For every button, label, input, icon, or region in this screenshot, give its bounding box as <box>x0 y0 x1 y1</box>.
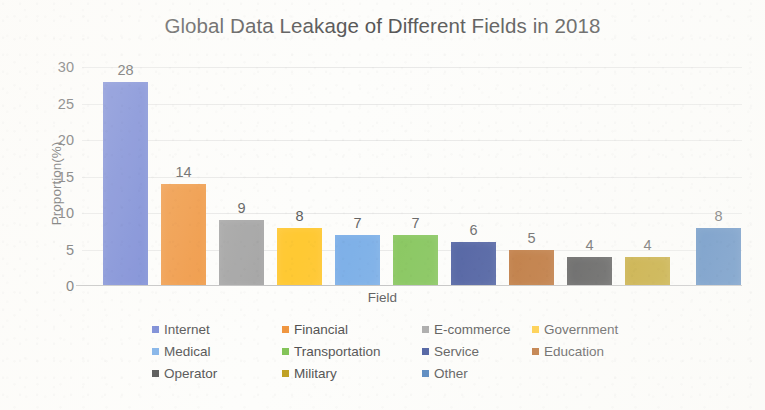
bar[interactable] <box>451 242 496 286</box>
legend-item-education[interactable]: Education <box>532 344 672 359</box>
legend-swatch-icon <box>422 348 429 355</box>
bar[interactable] <box>103 82 148 286</box>
legend-item-financial[interactable]: Financial <box>282 322 422 337</box>
bar-value-label: 7 <box>393 215 438 231</box>
legend-item-medical[interactable]: Medical <box>152 344 282 359</box>
bar-value-label: 5 <box>509 230 554 246</box>
y-axis-tick-labels: 302520151050 <box>36 67 74 286</box>
bar[interactable] <box>393 235 438 286</box>
bar-value-label: 9 <box>219 200 264 216</box>
bar-value-label: 14 <box>161 164 206 180</box>
bar-group[interactable]: 5 <box>509 67 554 286</box>
legend-item-military[interactable]: Military <box>282 366 422 381</box>
legend-label: Internet <box>164 322 210 337</box>
bar-value-label: 7 <box>335 215 380 231</box>
chart-legend: InternetFinancialE-commerceGovernmentMed… <box>152 318 672 384</box>
chart-title: Global Data Leakage of Different Fields … <box>0 14 765 38</box>
legend-label: Government <box>544 322 618 337</box>
bar-group[interactable]: 14 <box>161 67 206 286</box>
y-axis-tick-label: 30 <box>40 59 74 75</box>
bar[interactable] <box>161 184 206 286</box>
legend-swatch-icon <box>532 348 539 355</box>
y-axis-tick-label: 5 <box>40 242 74 258</box>
bar-value-label: 8 <box>696 208 741 224</box>
legend-swatch-icon <box>282 326 289 333</box>
bar-group[interactable]: 7 <box>335 67 380 286</box>
legend-label: Medical <box>164 344 211 359</box>
bar-group[interactable]: 7 <box>393 67 438 286</box>
legend-swatch-icon <box>422 370 429 377</box>
legend-swatch-icon <box>152 370 159 377</box>
legend-item-other[interactable]: Other <box>422 366 532 381</box>
bar[interactable] <box>335 235 380 286</box>
y-axis-tick-label: 20 <box>40 132 74 148</box>
legend-item-internet[interactable]: Internet <box>152 322 282 337</box>
legend-swatch-icon <box>152 348 159 355</box>
legend-swatch-icon <box>532 326 539 333</box>
bar-group[interactable]: 28 <box>103 67 148 286</box>
legend-label: Military <box>294 366 337 381</box>
legend-swatch-icon <box>422 326 429 333</box>
bar-value-label: 4 <box>567 237 612 253</box>
legend-swatch-icon <box>282 348 289 355</box>
legend-label: Other <box>434 366 468 381</box>
legend-label: Operator <box>164 366 217 381</box>
bar-group[interactable]: 8 <box>696 67 741 286</box>
bar[interactable] <box>696 228 741 286</box>
x-axis-line <box>76 285 742 286</box>
legend-item-service[interactable]: Service <box>422 344 532 359</box>
y-axis-tick-label: 15 <box>40 169 74 185</box>
bar-chart: Global Data Leakage of Different Fields … <box>0 0 765 410</box>
bar[interactable] <box>277 228 322 286</box>
legend-item-operator[interactable]: Operator <box>152 366 282 381</box>
x-axis-title: Field <box>0 290 765 305</box>
bar-group[interactable]: 4 <box>567 67 612 286</box>
legend-swatch-icon <box>152 326 159 333</box>
bar-group[interactable]: 4 <box>625 67 670 286</box>
legend-swatch-icon <box>282 370 289 377</box>
bar-value-label: 6 <box>451 222 496 238</box>
bar-group[interactable]: 9 <box>219 67 264 286</box>
bar-value-label: 8 <box>277 208 322 224</box>
legend-item-transportation[interactable]: Transportation <box>282 344 422 359</box>
legend-item-e-commerce[interactable]: E-commerce <box>422 322 532 337</box>
legend-label: Education <box>544 344 604 359</box>
bar[interactable] <box>219 220 264 286</box>
bar-value-label: 28 <box>103 62 148 78</box>
bar[interactable] <box>567 257 612 286</box>
legend-item-government[interactable]: Government <box>532 322 672 337</box>
bar-value-label: 4 <box>625 237 670 253</box>
legend-label: Service <box>434 344 479 359</box>
bar-group[interactable]: 8 <box>277 67 322 286</box>
bar[interactable] <box>625 257 670 286</box>
bar[interactable] <box>509 250 554 287</box>
y-axis-tick-label: 25 <box>40 96 74 112</box>
bar-group[interactable]: 6 <box>451 67 496 286</box>
legend-label: Financial <box>294 322 348 337</box>
legend-label: E-commerce <box>434 322 511 337</box>
y-axis-tick-label: 10 <box>40 205 74 221</box>
legend-label: Transportation <box>294 344 381 359</box>
plot-area: 2814987765448 <box>82 67 742 286</box>
